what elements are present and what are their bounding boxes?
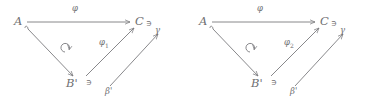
commutes-arrow-icon	[246, 43, 255, 52]
arrow-label-gamma-right: γ	[340, 26, 345, 35]
arrow-A-to-Bprime	[210, 26, 258, 76]
arrow-label-betaprime-right: β'	[290, 87, 297, 96]
membership-symbol-Bprime-right: ∋	[271, 79, 277, 87]
diagram-right: A C ∋ B' ∋ φ φ2 γ β'	[185, 0, 370, 110]
arrow-Bprime-to-C	[271, 28, 319, 76]
arrow-Bprime-to-C	[86, 28, 134, 76]
object-A-right: A	[199, 16, 207, 28]
arrow-label-gamma-left: γ	[155, 26, 160, 35]
arrow-label-phi-left: φ	[72, 4, 78, 13]
object-Bprime-right: B'	[251, 78, 263, 90]
arrow-label-phi2-right: φ2	[284, 38, 294, 49]
arrow-label-phi1-left: φ1	[99, 38, 109, 49]
commutative-diagram-figure: C (top horizontal) --> B' (down-right di…	[0, 0, 370, 110]
object-A-left: A	[14, 16, 22, 28]
membership-symbol-Bprime-left: ∋	[86, 79, 92, 87]
arrow-label-phi-right: φ	[257, 4, 263, 13]
arrow-betaprime-to-gamma	[110, 34, 158, 86]
object-C-right: C	[320, 16, 329, 28]
membership-symbol-C-left: ∋	[146, 20, 152, 28]
arrow-label-betaprime-left: β'	[105, 87, 112, 96]
commutes-arrow-icon	[61, 43, 70, 52]
diagram-right-arrows	[185, 0, 370, 110]
membership-symbol-C-right: ∋	[331, 20, 337, 28]
diagram-left-arrows: C (top horizontal) --> B' (down-right di…	[0, 0, 185, 110]
object-C-left: C	[135, 16, 144, 28]
object-Bprime-left: B'	[66, 78, 78, 90]
diagram-left: C (top horizontal) --> B' (down-right di…	[0, 0, 185, 110]
arrow-A-to-Bprime	[25, 26, 73, 76]
arrow-label-phi2-subscript-right: 2	[290, 42, 294, 49]
arrow-label-phi1-subscript-left: 1	[105, 42, 109, 49]
arrow-betaprime-to-gamma	[295, 34, 343, 86]
